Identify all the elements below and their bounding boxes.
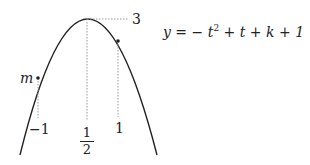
equation: y = − t2 + t + k + 1	[163, 23, 304, 40]
eq-sign: =	[171, 24, 192, 40]
half-numerator: 1	[80, 126, 94, 140]
point-t1	[116, 39, 120, 43]
vertex-value-label: 3	[132, 12, 141, 26]
eq-lhs: y	[163, 24, 171, 40]
x-label-one: 1	[115, 121, 124, 135]
x-label-neg-one: −1	[29, 122, 50, 136]
point-m	[36, 76, 40, 80]
eq-minus: −	[192, 24, 208, 40]
x-label-half: 1 2	[80, 126, 94, 157]
eq-rest: + t + k + 1	[219, 24, 304, 40]
half-denominator: 2	[80, 143, 94, 157]
parabola-diagram: 3 m −1 1 1 2 y = − t2 + t + k + 1	[0, 0, 310, 165]
point-m-label: m	[20, 71, 33, 85]
